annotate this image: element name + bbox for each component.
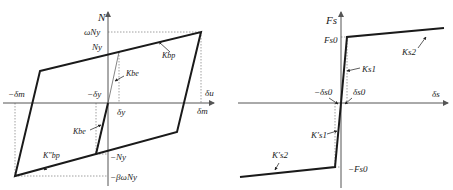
label-neg-dy: −δy (87, 89, 101, 99)
axis-label-fs: Fs (325, 14, 337, 26)
label-ks2: Ks2 (401, 47, 417, 57)
label-kbp-prime: K″bp (42, 151, 60, 160)
label-dy: δy (117, 107, 125, 117)
diagram-canvas: N ωNy Ny Kbp Kbe −δm −δy δy δu δm Kbe K″… (0, 0, 453, 190)
label-ks1-prime: K′s1 (310, 130, 327, 140)
label-neg-ny: −Ny (110, 152, 126, 162)
label-kbp: Kbp (161, 51, 175, 60)
left-hysteresis-plot: N ωNy Ny Kbp Kbe −δm −δy δy δu δm Kbe K″… (3, 11, 214, 186)
leader-kbe-top (115, 76, 124, 81)
label-neg-dm: −δm (8, 89, 25, 99)
label-ds: δs (432, 89, 440, 99)
leader-ks1-prime (327, 131, 337, 134)
unloading-branch (96, 103, 108, 154)
leader-ks1 (347, 68, 360, 71)
label-ds0: δs0 (353, 87, 366, 97)
elastic-line-kbe (108, 52, 119, 103)
axis-label-n: N (97, 11, 106, 23)
leader-kbe-bottom (90, 125, 101, 130)
right-force-displacement-plot: Fs Fs0 Ks2 Ks1 −δs0 δs0 δs K′s1 K′s2 −Fs… (238, 12, 448, 188)
label-dm: δm (197, 106, 208, 116)
label-neg-beta-omega-ny: −βωNy (110, 172, 137, 182)
label-kbe-bottom: Kbe (72, 127, 86, 136)
negative-branch (240, 103, 341, 177)
label-ks1: Ks1 (361, 64, 376, 74)
label-fs0: Fs0 (323, 35, 338, 45)
label-omega-ny: ωNy (84, 27, 100, 37)
label-du: δu (205, 88, 214, 98)
leader-ks2 (418, 37, 426, 48)
label-kbe-top: Kbe (125, 69, 139, 78)
label-ny: Ny (91, 42, 102, 52)
label-ks2-prime: K′s2 (271, 150, 288, 160)
label-neg-fs0: −Fs0 (348, 164, 368, 174)
label-neg-ds0: −δs0 (314, 87, 333, 97)
leader-ks2-prime (275, 163, 279, 170)
